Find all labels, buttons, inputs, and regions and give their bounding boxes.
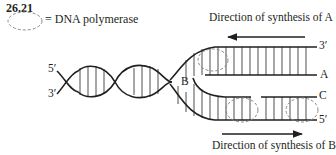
polymerase-lagging-2-icon xyxy=(286,98,318,122)
top-base-pairs xyxy=(186,47,306,82)
polymerase-leading-icon xyxy=(198,49,228,71)
legend-polymerase-icon xyxy=(8,12,42,30)
helix-base-pairs xyxy=(80,66,158,97)
replication-fork-diagram xyxy=(0,0,336,155)
helix-strand-2 xyxy=(57,66,172,97)
parent-strand-bottom xyxy=(170,84,317,120)
